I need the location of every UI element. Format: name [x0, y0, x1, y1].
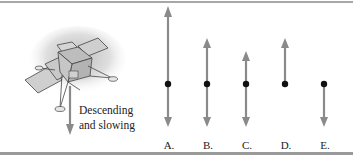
caption-line-1: Descending — [79, 103, 135, 118]
bottom-rule — [0, 152, 353, 155]
option-e-label: E. — [313, 139, 337, 151]
down-arrow-icon — [242, 117, 250, 127]
up-arrow-icon — [281, 38, 289, 48]
option-d-label: D. — [274, 139, 298, 151]
up-arrow-icon — [203, 38, 211, 48]
point-mass-dot — [282, 81, 288, 87]
caption-line-2: and slowing — [79, 118, 135, 133]
option-a-label: A. — [157, 139, 181, 151]
up-arrow-icon — [242, 51, 250, 61]
diagram-canvas — [0, 0, 359, 162]
figure-frame: Descending and slowing A. B. C. D. E. — [0, 0, 359, 162]
down-arrow-icon — [164, 117, 172, 127]
point-mass-dot — [243, 81, 249, 87]
point-mass-dot — [204, 81, 210, 87]
down-arrow-icon — [203, 117, 211, 127]
point-mass-dot — [165, 81, 171, 87]
option-c-force-diagram — [242, 51, 250, 127]
option-c-label: C. — [235, 139, 259, 151]
point-mass-dot — [321, 81, 327, 87]
lunar-lander-illustration — [25, 26, 126, 112]
option-b-force-diagram — [203, 38, 211, 127]
motion-caption: Descending and slowing — [79, 103, 135, 133]
down-arrow-icon — [320, 117, 328, 127]
option-e-force-diagram — [320, 81, 328, 127]
option-b-label: B. — [196, 139, 220, 151]
up-arrow-icon — [164, 6, 172, 17]
option-d-force-diagram — [281, 38, 289, 87]
option-a-force-diagram — [164, 6, 172, 127]
